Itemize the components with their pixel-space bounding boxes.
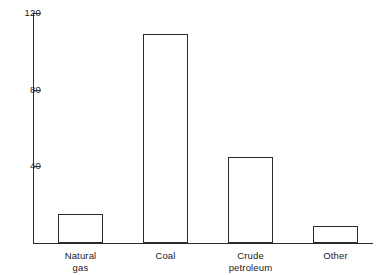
y-tick-mark-120: [34, 13, 41, 14]
category-label-other: Other: [293, 250, 378, 262]
bar-natural-gas[interactable]: [58, 214, 103, 243]
bar-coal[interactable]: [143, 34, 188, 243]
y-tick-group-0: 40: [0, 166, 41, 167]
y-tick-group-1: 80: [0, 90, 41, 91]
category-label-natural-gas: Natural gas: [38, 250, 123, 273]
y-tick-mark-40: [34, 166, 41, 167]
y-axis-line: [33, 13, 34, 244]
category-label-crude-petroleum: Crude petroleum: [208, 250, 293, 273]
bar-chart: 120 80 40 Natural gas Coal Crude petrole…: [0, 0, 380, 275]
category-label-coal: Coal: [123, 250, 208, 262]
y-tick-mark-80: [34, 90, 41, 91]
y-tick-group-2: 120: [0, 13, 41, 14]
x-axis-line: [33, 243, 373, 244]
bar-crude-petroleum[interactable]: [228, 157, 273, 243]
bar-other[interactable]: [313, 226, 358, 243]
